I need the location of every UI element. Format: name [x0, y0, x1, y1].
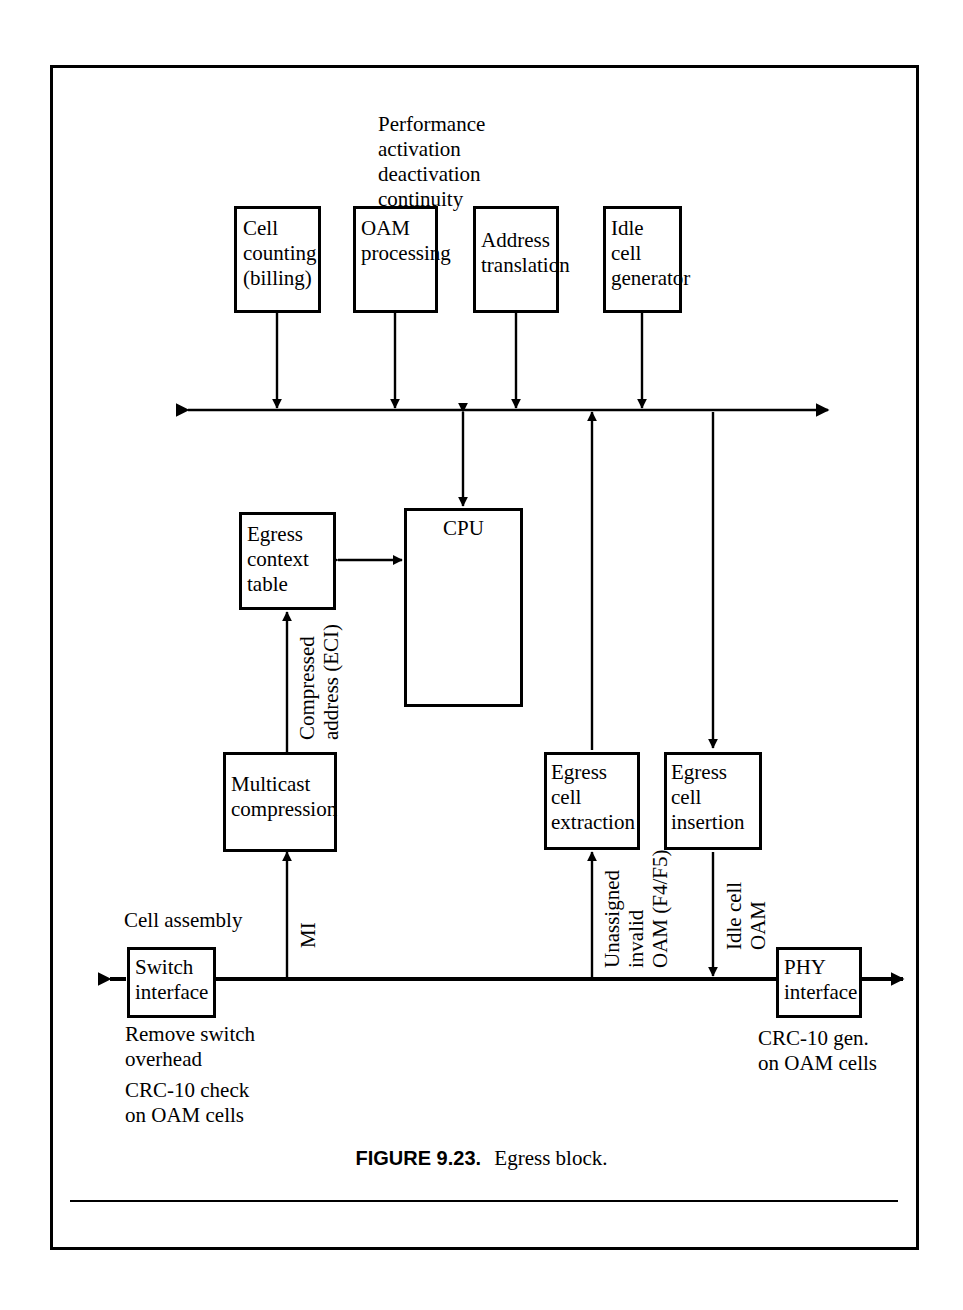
figure-caption: FIGURE 9.23. Egress block. — [0, 1146, 963, 1171]
box-switch-interface-label: Switch interface — [135, 955, 230, 1005]
figure-title: Egress block. — [494, 1146, 607, 1170]
box-cell-counting-label: Cell counting (billing) — [243, 216, 323, 291]
box-multicast-compression-label: Multicast compression — [231, 772, 351, 822]
label-remove-switch-overhead: Remove switch overhead — [125, 1022, 325, 1072]
label-mi: MI — [296, 888, 320, 948]
box-egress-cell-extraction-label: Egress cell extraction — [551, 760, 651, 835]
box-egress-context-table-label: Egress context table — [247, 522, 339, 597]
box-phy-interface-label: PHY interface — [784, 955, 874, 1005]
label-crc10-check: CRC-10 check on OAM cells — [125, 1078, 335, 1128]
label-performance-list: Performance activation deactivation cont… — [378, 112, 558, 212]
figure-number: FIGURE 9.23. — [355, 1147, 481, 1169]
box-oam-processing-label: OAM processing — [361, 216, 445, 266]
label-compressed-address: Compressed address (ECI) — [295, 605, 343, 740]
caption-rule — [70, 1200, 898, 1202]
label-unassigned-invalid: Unassigned invalid OAM (F4/F5) — [600, 828, 672, 968]
box-address-translation-label: Address translation — [481, 228, 569, 278]
box-idle-cell-generator-label: Idle cell generator — [611, 216, 701, 291]
label-cell-assembly: Cell assembly — [124, 908, 324, 933]
label-crc10-gen: CRC-10 gen. on OAM cells — [758, 1026, 958, 1076]
box-cpu-label: CPU — [404, 516, 523, 541]
label-idle-cell-oam: Idle cell OAM — [722, 830, 770, 950]
figure-page: Cell counting (billing) OAM processing A… — [0, 0, 963, 1310]
box-egress-cell-insertion-label: Egress cell insertion — [671, 760, 771, 835]
